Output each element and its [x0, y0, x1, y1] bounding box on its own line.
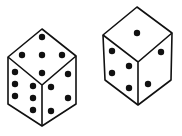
pip-left [30, 83, 36, 89]
pip-left [109, 70, 115, 76]
pip-right [145, 81, 151, 87]
pip-top [39, 52, 45, 58]
pip-top [39, 70, 45, 76]
die-left [8, 29, 76, 126]
pip-top [19, 52, 25, 58]
pip-left [109, 48, 115, 54]
pip-right [65, 95, 71, 101]
pip-top [59, 52, 65, 58]
pip-right [158, 49, 164, 55]
pip-left [12, 69, 18, 75]
pip-top [39, 34, 45, 40]
pip-left [30, 95, 36, 101]
pip-left [30, 107, 36, 113]
die-right [103, 7, 172, 105]
pip-left [12, 81, 18, 87]
pip-left [126, 63, 132, 69]
pip-left [126, 85, 132, 91]
pip-top [134, 30, 140, 36]
pip-left [12, 93, 18, 99]
pip-right [48, 108, 54, 114]
dice-figure [0, 0, 182, 136]
pip-right [65, 71, 71, 77]
pip-right [48, 84, 54, 90]
